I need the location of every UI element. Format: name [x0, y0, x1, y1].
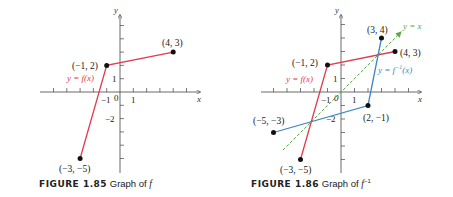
tick-label-y1: 1 [112, 74, 117, 84]
caption-text: Graph of [110, 178, 150, 189]
tick-label-yneg2: −2 [326, 114, 336, 124]
y-axis-label: y [334, 5, 339, 15]
point-neg1-2 [104, 63, 109, 68]
point-neg3-neg5 [78, 156, 83, 161]
figures-canvas: (4, 3) (−1, 2) y = f(x) (−3, −5) y x −1 … [0, 0, 453, 197]
figure-1-86-graph: (3, 4) (4, 3) (−1, 2) (2, −1) (−5, −3) (… [253, 5, 422, 176]
label-point-3-4: (3, 4) [367, 25, 388, 36]
label-f-curve: y = f(x) [66, 73, 94, 83]
tick-label-1: 1 [352, 95, 357, 105]
label-identity-line: y = x [402, 21, 422, 31]
tick-label-y1: 1 [333, 74, 338, 84]
tick-label-0: 0 [114, 93, 119, 103]
figure-1-86-caption: FIGURE 1.86 Graph of f−1 [251, 178, 371, 189]
point-neg1-2 [325, 63, 330, 68]
caption-sup: −1 [364, 178, 371, 184]
label-point-4-3: (4, 3) [400, 48, 421, 59]
caption-label: FIGURE 1.85 [39, 179, 107, 189]
label-point-neg5-neg3: (−5, −3) [253, 116, 284, 127]
label-point-neg1-2: (−1, 2) [72, 61, 98, 72]
y-axis-label: y [113, 5, 118, 15]
caption-label: FIGURE 1.86 [251, 179, 319, 189]
label-point-neg3-neg5: (−3, −5) [280, 165, 311, 176]
caption-fn: f [149, 179, 152, 189]
label-f-inverse-curve: y = f−1(x) [377, 64, 412, 75]
point-2-neg1 [366, 103, 371, 108]
x-axis-label: x [196, 94, 201, 104]
tick-label-neg1: −1 [321, 95, 331, 105]
tick-label-0: 0 [334, 93, 339, 103]
tick-label-1: 1 [131, 95, 136, 105]
tick-label-yneg2: −2 [105, 114, 115, 124]
point-neg5-neg3 [271, 130, 276, 135]
label-point-neg3-neg5: (−3, −5) [59, 164, 90, 175]
point-3-4 [379, 36, 384, 41]
point-neg3-neg5 [298, 157, 303, 162]
label-point-4-3: (4, 3) [162, 38, 183, 49]
x-axis-label: x [417, 94, 422, 104]
label-point-neg1-2: (−1, 2) [292, 58, 318, 69]
figure-1-85-caption: FIGURE 1.85 Graph of f [39, 178, 152, 189]
point-4-3 [171, 50, 176, 55]
point-4-3 [393, 49, 398, 54]
label-point-2-neg1: (2, −1) [363, 113, 389, 124]
tick-label-neg1: −1 [101, 95, 111, 105]
figure-1-85-graph: (4, 3) (−1, 2) y = f(x) (−3, −5) y x −1 … [40, 5, 201, 175]
label-f-curve: y = f(x) [285, 74, 313, 84]
caption-text: Graph of [322, 178, 362, 189]
